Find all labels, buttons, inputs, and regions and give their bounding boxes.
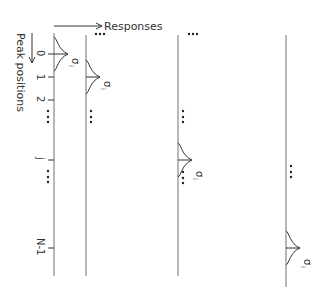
gaussian-peak-0 <box>54 37 68 71</box>
svg-text:1: 1 <box>35 74 46 80</box>
svg-text:2: 2 <box>35 96 46 102</box>
tick-1: 1 <box>35 74 54 80</box>
top-ellipsis-1 <box>95 33 105 35</box>
peak-positions-arrow <box>29 33 35 63</box>
svg-text:i: i <box>67 65 75 67</box>
svg-text:i: i <box>299 266 307 268</box>
linej-ellipsis-upper <box>182 110 184 123</box>
svg-text:σ: σ <box>194 171 205 178</box>
sigma-label-j: σ i <box>191 171 205 180</box>
svg-text:σ: σ <box>102 81 113 88</box>
peak-positions-label: Peak positions <box>14 33 27 112</box>
svg-text:j: j <box>35 156 46 160</box>
tick-2: 2 <box>35 96 54 102</box>
gaussian-peak-j <box>178 143 192 177</box>
svg-text:σ: σ <box>302 259 313 266</box>
svg-text:N-1: N-1 <box>35 238 46 255</box>
line-n1-ellipsis <box>290 165 292 178</box>
tick-n-1: N-1 <box>35 238 54 255</box>
axis-ellipsis-lower <box>47 170 49 183</box>
svg-text:0: 0 <box>35 50 46 56</box>
responses-arrow <box>54 23 102 29</box>
top-ellipsis-2 <box>188 33 198 35</box>
responses-label: Responses <box>104 20 163 33</box>
linej-ellipsis-lower <box>182 171 184 184</box>
svg-text:σ: σ <box>70 58 81 65</box>
svg-text:i: i <box>99 88 107 90</box>
axis-ellipsis-upper <box>47 110 49 123</box>
tick-0: 0 <box>35 50 54 56</box>
line1-ellipsis <box>90 110 92 123</box>
sigma-label-1: σ i <box>99 81 113 90</box>
sigma-label-0: σ i <box>67 58 81 67</box>
sigma-label-n-1: σ i <box>299 259 313 268</box>
gaussian-peak-n-1 <box>286 231 300 265</box>
peak-response-diagram: Responses Peak positions 0 1 2 j N-1 <box>0 0 328 291</box>
tick-j: j <box>35 156 54 160</box>
svg-text:i: i <box>191 178 199 180</box>
gaussian-peak-1 <box>86 60 100 94</box>
